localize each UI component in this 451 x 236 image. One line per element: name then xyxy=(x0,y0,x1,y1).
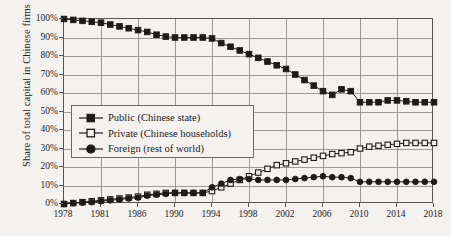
data-point xyxy=(394,179,400,185)
data-point xyxy=(135,195,141,201)
data-point xyxy=(293,159,298,164)
data-point xyxy=(283,177,289,183)
y-axis-tick-mark xyxy=(59,111,63,112)
data-point xyxy=(292,176,298,182)
legend-item-private: Private (Chinese households) xyxy=(78,126,247,142)
data-point xyxy=(80,18,86,24)
data-point xyxy=(172,35,178,41)
data-point xyxy=(255,55,261,61)
data-point xyxy=(191,35,197,41)
data-point xyxy=(256,170,261,175)
data-point xyxy=(366,99,372,105)
data-point xyxy=(154,32,160,38)
data-point xyxy=(228,177,234,183)
data-point xyxy=(228,44,234,50)
data-point xyxy=(181,190,187,196)
legend-item-foreign: Foreign (rest of world) xyxy=(78,141,247,157)
x-axis-tick-label: 2006 xyxy=(313,209,332,219)
data-point xyxy=(339,87,345,93)
y-axis-tick-mark xyxy=(59,129,63,130)
data-point xyxy=(431,140,436,145)
data-point xyxy=(98,198,104,204)
y-axis-tick-mark xyxy=(59,203,63,204)
y-axis-tick-mark xyxy=(59,185,63,186)
data-point xyxy=(302,175,308,181)
data-point xyxy=(209,36,215,42)
data-point xyxy=(246,51,252,57)
x-axis-tick-label: 2014 xyxy=(387,209,406,219)
x-axis-tick-label: 1986 xyxy=(128,209,147,219)
y-axis-tick-mark xyxy=(59,166,63,167)
data-point xyxy=(255,177,261,183)
data-point xyxy=(274,177,280,183)
data-point xyxy=(117,196,123,202)
data-point xyxy=(265,177,271,183)
legend-marker-filled-circle-icon xyxy=(78,143,104,155)
x-axis-tick-label: 1990 xyxy=(165,209,184,219)
data-point xyxy=(274,162,279,167)
data-point xyxy=(385,142,390,147)
data-point xyxy=(339,174,345,180)
x-axis-tick-label: 2002 xyxy=(276,209,295,219)
chart-legend: Public (Chinese state) Private (Chinese … xyxy=(71,105,254,158)
data-point xyxy=(70,17,76,23)
data-point xyxy=(70,200,76,206)
data-point xyxy=(422,140,427,145)
data-point xyxy=(237,48,243,54)
data-point xyxy=(376,99,382,105)
data-point xyxy=(339,150,344,155)
data-point xyxy=(330,151,335,156)
y-axis-tick-mark xyxy=(59,55,63,56)
data-point xyxy=(311,155,316,160)
data-point xyxy=(348,88,354,94)
data-point xyxy=(107,197,113,203)
legend-label-foreign: Foreign (rest of world) xyxy=(108,143,204,154)
data-point xyxy=(144,29,150,35)
data-point xyxy=(413,99,419,105)
data-point xyxy=(302,157,307,162)
data-point xyxy=(246,176,252,182)
y-axis-tick-mark xyxy=(59,74,63,75)
data-point xyxy=(413,179,419,185)
data-point xyxy=(385,98,391,104)
data-point xyxy=(98,20,104,26)
series-filled-square xyxy=(61,16,437,105)
data-point xyxy=(218,40,224,46)
data-point xyxy=(422,99,428,105)
data-point xyxy=(172,190,178,196)
data-point xyxy=(89,199,95,205)
data-point xyxy=(89,19,95,25)
data-point xyxy=(265,166,270,171)
y-axis-tick-mark xyxy=(59,37,63,38)
data-point xyxy=(394,141,399,146)
data-point xyxy=(311,174,317,180)
x-axis-tick-label: 2010 xyxy=(350,209,369,219)
legend-marker-filled-square-icon xyxy=(78,112,104,124)
x-axis-tick-label: 1978 xyxy=(54,209,73,219)
data-point xyxy=(357,179,363,185)
data-point xyxy=(404,140,409,145)
legend-item-public: Public (Chinese state) xyxy=(78,110,247,126)
data-point xyxy=(329,92,335,98)
x-axis-tick-label: 1981 xyxy=(91,209,110,219)
chart-container: Share of total capital in Chinese firms … xyxy=(0,0,451,236)
x-axis-tick-label: 2018 xyxy=(424,209,443,219)
y-axis-tick-mark xyxy=(59,18,63,19)
data-point xyxy=(144,193,150,199)
x-axis-tick-label: 1998 xyxy=(239,209,258,219)
data-point xyxy=(163,34,169,40)
legend-label-private: Private (Chinese households) xyxy=(108,128,231,139)
data-point xyxy=(274,62,280,68)
y-axis-tick-mark xyxy=(59,92,63,93)
data-point xyxy=(292,72,298,78)
data-point xyxy=(320,173,326,179)
series-filled-circle xyxy=(61,173,437,207)
data-point xyxy=(163,191,169,197)
data-point xyxy=(117,24,123,30)
data-point xyxy=(61,201,67,207)
data-point xyxy=(209,184,215,190)
data-point xyxy=(265,59,271,65)
data-point xyxy=(329,174,335,180)
data-point xyxy=(191,190,197,196)
data-point xyxy=(403,99,409,105)
